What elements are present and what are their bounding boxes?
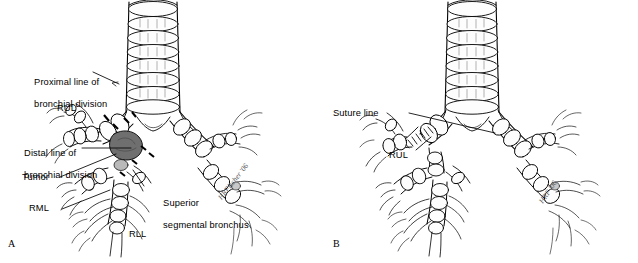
- label-rul-b: RUL: [389, 150, 408, 161]
- label-tumor: Tumor: [22, 172, 49, 183]
- rll-bronchus-b: [388, 180, 468, 257]
- trachea-a: [126, 0, 180, 114]
- trachea-b: [445, 0, 499, 114]
- label-rml: RML: [29, 203, 49, 214]
- panel-letter-b: B: [333, 238, 340, 249]
- panel-divider: [318, 0, 319, 263]
- panel-a: Proximal line of bronchial division RUL …: [0, 0, 319, 263]
- panel-letter-a: A: [8, 238, 15, 249]
- label-line-1: Distal line of: [24, 148, 76, 158]
- figure-container: Proximal line of bronchial division RUL …: [0, 0, 638, 263]
- panel-b: Suture line RUL HRF '06 B: [319, 0, 638, 263]
- label-line-2: segmental bronchus: [163, 220, 249, 230]
- label-line-1: Proximal line of: [34, 77, 99, 87]
- tumor-mass-a: [110, 131, 143, 171]
- label-line-1: Superior: [163, 198, 199, 208]
- label-rll: RLL: [129, 229, 146, 240]
- rul-bronchus-b: [360, 113, 412, 172]
- right-main-bronchus-b: [417, 111, 452, 145]
- bronchus-intermedius-b: [428, 148, 445, 176]
- label-superior-segmental-bronchus: Superior segmental bronchus: [147, 187, 249, 242]
- rml-bronchus-b: [376, 166, 432, 215]
- superior-segmental-bronchus-b: [446, 166, 470, 191]
- label-suture-line: Suture line: [333, 108, 379, 119]
- left-main-bronchus-b: [489, 110, 600, 254]
- panel-b-artwork: [319, 0, 638, 263]
- label-distal-line-of-bronchial-division: Distal line of bronchial division: [8, 137, 97, 192]
- label-rul-a: RUL: [57, 103, 76, 114]
